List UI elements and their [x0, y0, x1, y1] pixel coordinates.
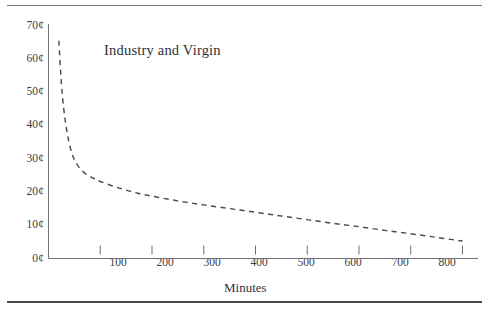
chart-figure: 70¢ 60¢ 50¢ 40¢ 30¢ 20¢ 10¢ 0¢ 100 200 3…: [0, 0, 489, 313]
plot-area: [0, 0, 489, 313]
x-axis-ticks: [100, 246, 462, 255]
data-series-line: [59, 41, 463, 241]
